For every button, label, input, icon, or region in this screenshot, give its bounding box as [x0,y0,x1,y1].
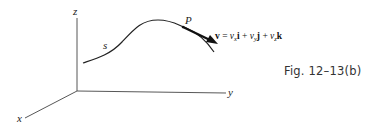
eq-plus-2: + [262,31,267,41]
eq-term-z-unit: k [277,31,282,41]
eq-term-x-unit: i [237,31,240,41]
velocity-vector [183,27,212,41]
z-axis-label: z [73,6,77,17]
figure-caption: Fig. 12–13(b) [284,66,361,78]
point-p-marker [182,26,185,29]
x-axis [25,91,77,118]
eq-term-y-unit: j [257,31,260,41]
point-label-p: P [185,15,192,26]
eq-v-symbol: v [215,31,220,41]
x-axis-label: x [17,113,22,124]
y-axis [77,91,226,93]
y-axis-label: y [228,87,233,98]
eq-equals: = [222,31,227,41]
eq-plus-1: + [242,31,247,41]
path-label-s: s [103,40,107,51]
velocity-equation: v = vxi + vyj + vzk [215,32,282,43]
